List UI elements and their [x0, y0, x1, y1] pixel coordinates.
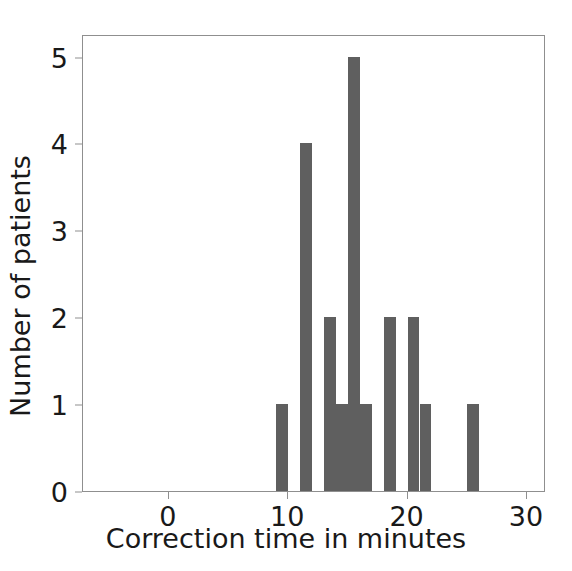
y-tick-label: 3 [51, 218, 68, 245]
y-tick-mark [75, 492, 82, 493]
x-axis-title: Correction time in minutes [0, 524, 572, 554]
y-tick-label: 4 [51, 131, 68, 158]
histogram-bar [467, 404, 479, 491]
histogram-bar [420, 404, 432, 491]
y-tick-mark [75, 318, 82, 319]
histogram-bar [408, 317, 420, 491]
histogram-bar [348, 57, 360, 491]
x-tick-mark [407, 492, 408, 499]
histogram-bar [300, 143, 312, 491]
x-tick-mark [287, 492, 288, 499]
histogram-bar [384, 317, 396, 491]
y-tick-mark [75, 231, 82, 232]
y-tick-label: 5 [51, 44, 68, 71]
histogram-bar [324, 317, 336, 491]
y-tick-label: 2 [51, 305, 68, 332]
histogram-bar [360, 404, 372, 491]
x-tick-mark [168, 492, 169, 499]
histogram-bar [276, 404, 288, 491]
y-tick-mark [75, 57, 82, 58]
y-tick-mark [75, 144, 82, 145]
histogram-figure: Number of patients 012345 0102030 Correc… [0, 0, 572, 571]
x-tick-mark [526, 492, 527, 499]
y-tick-label: 1 [51, 392, 68, 419]
histogram-bar [336, 404, 348, 491]
y-axis-ticks: 012345 [0, 35, 82, 492]
plot-area [82, 35, 545, 492]
y-tick-label: 0 [51, 479, 68, 506]
y-tick-mark [75, 405, 82, 406]
